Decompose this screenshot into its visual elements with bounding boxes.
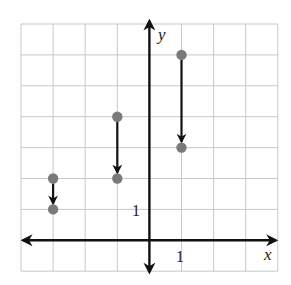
- data-point: [176, 50, 186, 60]
- data-point: [48, 204, 58, 214]
- data-point: [112, 173, 122, 183]
- data-point: [112, 112, 122, 122]
- data-point: [176, 142, 186, 152]
- axes: [23, 21, 276, 272]
- x-axis-label: x: [263, 245, 272, 264]
- data-point: [48, 173, 58, 183]
- coordinate-plane: y x 1 1: [0, 0, 291, 285]
- y-tick-label: 1: [132, 202, 140, 219]
- y-axis-label: y: [156, 25, 166, 44]
- x-tick-label: 1: [176, 248, 184, 265]
